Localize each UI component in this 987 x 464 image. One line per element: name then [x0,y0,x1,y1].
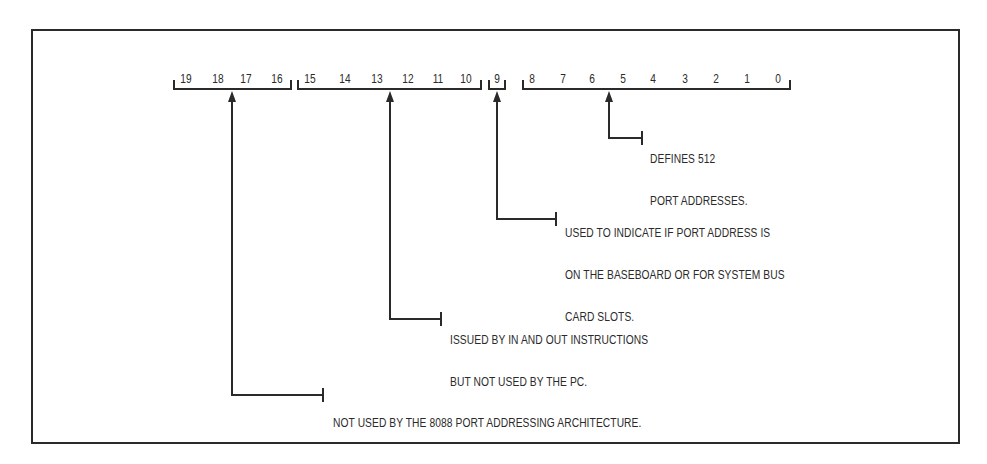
bit-label: 1 [739,72,755,85]
bit-label: 15 [302,72,318,85]
bit-label: 5 [615,72,631,85]
bit-label: 12 [400,72,416,85]
bracket-bits-15-10 [298,80,481,89]
description-line: DEFINES 512 [650,152,748,166]
leader-line-bits-15-10 [390,101,441,319]
bit-label: 17 [238,72,254,85]
bit-label: 10 [458,72,474,85]
bit-label: 4 [645,72,661,85]
description-line: BUT NOT USED BY THE PC. [450,375,648,389]
description-line: USED TO INDICATE IF PORT ADDRESS IS [565,226,785,240]
description-line: NOT USED BY THE 8088 PORT ADDRESSING ARC… [333,416,641,430]
arrowhead-icon [493,91,501,102]
arrowhead-icon [605,91,613,102]
description-line: ON THE BASEBOARD OR FOR SYSTEM BUS [565,268,785,282]
bit-label: 18 [210,72,226,85]
bit-label: 3 [677,72,693,85]
bit-label: 16 [269,72,285,85]
bit-label: 13 [369,72,385,85]
arrowhead-icon [386,91,394,102]
bit-label: 19 [178,72,194,85]
leader-line-bits-8-0 [609,101,642,138]
bit-label: 8 [524,72,540,85]
description-bits-19-16: NOT USED BY THE 8088 PORT ADDRESSING ARC… [333,388,641,444]
bit-label: 6 [584,72,600,85]
bit-label: 14 [337,72,353,85]
bit-label: 7 [555,72,571,85]
arrowhead-icon [228,91,236,102]
leader-line-bit-9 [497,101,556,219]
leader-line-bits-19-16 [232,101,323,395]
bit-label: 2 [708,72,724,85]
bit-label: 11 [430,72,446,85]
bit-label: 9 [489,72,505,85]
description-line: ISSUED BY IN AND OUT INSTRUCTIONS [450,333,648,347]
bit-label: 0 [770,72,786,85]
